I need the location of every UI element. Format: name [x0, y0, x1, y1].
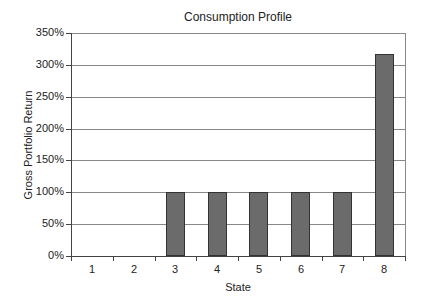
x-axis-title: State — [71, 281, 405, 293]
y-tick-label: 50% — [14, 217, 64, 229]
y-tick — [66, 33, 71, 34]
x-tick-label: 3 — [160, 263, 190, 275]
x-tick — [71, 256, 72, 261]
y-tick-label: 0% — [14, 249, 64, 261]
y-tick — [66, 224, 71, 225]
x-tick-label: 6 — [286, 263, 316, 275]
y-axis — [71, 33, 72, 257]
y-axis-title: Gross Portfolio Return — [22, 91, 34, 200]
gridline — [71, 160, 405, 161]
bar-state-4 — [208, 192, 227, 256]
x-tick-label: 5 — [244, 263, 274, 275]
y-tick — [66, 65, 71, 66]
bar-state-6 — [291, 192, 310, 256]
x-tick-label: 4 — [202, 263, 232, 275]
x-tick-label: 7 — [327, 263, 357, 275]
x-tick — [113, 256, 114, 261]
x-tick — [280, 256, 281, 261]
y-tick — [66, 160, 71, 161]
y-tick — [66, 97, 71, 98]
bar-state-7 — [333, 192, 352, 256]
x-tick — [363, 256, 364, 261]
gridline — [71, 129, 405, 130]
gridline — [71, 224, 405, 225]
y-tick — [66, 192, 71, 193]
x-tick-label: 8 — [369, 263, 399, 275]
y-tick-label: 300% — [14, 58, 64, 70]
x-tick — [155, 256, 156, 261]
bar-state-5 — [249, 192, 268, 256]
x-tick — [196, 256, 197, 261]
gridline — [71, 65, 405, 66]
x-tick-label: 2 — [119, 263, 149, 275]
gridline — [71, 192, 405, 193]
gridline — [71, 97, 405, 98]
x-tick — [322, 256, 323, 261]
bar-state-8 — [375, 54, 394, 256]
y-tick — [66, 129, 71, 130]
chart-title: Consumption Profile — [71, 10, 405, 24]
x-tick — [238, 256, 239, 261]
x-tick — [405, 256, 406, 261]
bar-state-3 — [166, 192, 185, 256]
x-tick-label: 1 — [77, 263, 107, 275]
y-tick-label: 350% — [14, 26, 64, 38]
